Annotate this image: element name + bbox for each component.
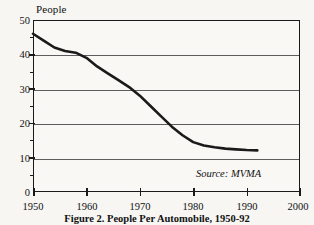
- y-tick-label-10: 10: [6, 152, 30, 163]
- y-tick-label-50: 50: [6, 15, 30, 26]
- x-tick-mark-1990: [247, 188, 249, 196]
- y-tick-mark-40: [29, 54, 35, 56]
- gridline-10: [34, 159, 299, 160]
- y-tick-mark-20: [29, 123, 35, 125]
- y-tick-mark-25: [30, 106, 34, 107]
- y-tick-mark-10: [29, 157, 35, 159]
- gridline-30: [34, 90, 299, 91]
- figure-screenshot: People 50 40 30 20 10 0 1950 1960 1970 1…: [0, 0, 314, 225]
- y-tick-mark-15: [30, 140, 34, 141]
- x-tick-label-1950: 1950: [13, 201, 53, 212]
- y-tick-label-30: 30: [6, 83, 30, 94]
- x-tick-label-1960: 1960: [67, 201, 107, 212]
- y-tick-mark-45: [30, 37, 34, 38]
- x-tick-mark-2000: [299, 188, 301, 196]
- y-tick-label-20: 20: [6, 118, 30, 129]
- y-tick-mark-30: [29, 88, 35, 90]
- x-tick-mark-1980: [193, 188, 195, 196]
- plot-area: [33, 20, 300, 192]
- x-tick-mark-1970: [140, 188, 142, 196]
- x-tick-label-1990: 1990: [227, 201, 267, 212]
- y-tick-label-40: 40: [6, 49, 30, 60]
- figure-caption: Figure 2. People Per Automobile, 1950-92: [0, 213, 314, 224]
- x-tick-mark-1950: [33, 188, 35, 196]
- y-axis-title: People: [36, 3, 67, 15]
- y-tick-mark-5: [30, 175, 34, 176]
- gridline-40: [34, 55, 299, 56]
- x-tick-label-1980: 1980: [173, 201, 213, 212]
- gridline-20: [34, 124, 299, 125]
- x-tick-label-1970: 1970: [120, 201, 160, 212]
- source-note: Source: MVMA: [196, 168, 261, 179]
- y-tick-mark-35: [30, 72, 34, 73]
- x-tick-label-2000: 2000: [278, 201, 314, 212]
- x-tick-mark-1960: [86, 188, 88, 196]
